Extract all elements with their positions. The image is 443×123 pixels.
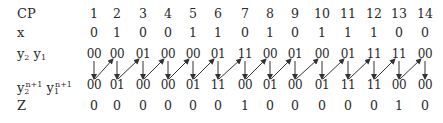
z-cell: 0 <box>82 99 106 113</box>
present-state-cell: 00 <box>105 47 129 61</box>
z-cell: 0 <box>258 99 282 113</box>
x-cell: 1 <box>362 26 386 40</box>
present-state-cell: 11 <box>233 47 257 61</box>
x-cell: 1 <box>206 26 230 40</box>
cp-cell: 11 <box>336 7 360 21</box>
present-state-cell: 01 <box>131 47 155 61</box>
z-cell: 0 <box>105 99 129 113</box>
x-cell: 0 <box>283 26 307 40</box>
x-cell: 1 <box>310 26 334 40</box>
z-cell: 0 <box>131 99 155 113</box>
x-cell: 0 <box>233 26 257 40</box>
x-cell: 0 <box>131 26 155 40</box>
present-state-cell: 11 <box>387 47 411 61</box>
next-state-cell: 11 <box>206 78 230 92</box>
cp-cell: 10 <box>310 7 334 21</box>
present-state-cell: 00 <box>156 47 180 61</box>
next-state-cell: 00 <box>82 78 106 92</box>
cp-cell: 14 <box>413 7 437 21</box>
z-cell: 0 <box>310 99 334 113</box>
present-state-cell: 01 <box>283 47 307 61</box>
z-cell: 0 <box>206 99 230 113</box>
next-state-cell: 00 <box>387 78 411 92</box>
next-state-cell: 11 <box>336 78 360 92</box>
next-state-cell: 11 <box>362 78 386 92</box>
next-state-cell: 01 <box>310 78 334 92</box>
present-state-cell: 00 <box>181 47 205 61</box>
next-state-cell: 00 <box>156 78 180 92</box>
z-cell: 0 <box>283 99 307 113</box>
next-state-cell: 00 <box>131 78 155 92</box>
z-cell: 1 <box>233 99 257 113</box>
next-state-cell: 01 <box>181 78 205 92</box>
x-cell: 0 <box>156 26 180 40</box>
cp-cell: 12 <box>362 7 386 21</box>
present-state-cell: 00 <box>413 47 437 61</box>
x-cell: 0 <box>387 26 411 40</box>
next-state-cell: 01 <box>105 78 129 92</box>
next-state-cell: 00 <box>413 78 437 92</box>
cp-cell: 3 <box>131 7 155 21</box>
z-cell: 0 <box>413 99 437 113</box>
cp-cell: 9 <box>283 7 307 21</box>
cp-cell: 8 <box>258 7 282 21</box>
state-transition-table: CP x y2 y1 y2n+1 y1n+1 Z 123456789101112… <box>0 0 443 123</box>
x-cell: 1 <box>258 26 282 40</box>
present-state-cell: 11 <box>362 47 386 61</box>
x-cell: 0 <box>413 26 437 40</box>
z-cell: 0 <box>181 99 205 113</box>
cp-cell: 13 <box>387 7 411 21</box>
z-cell: 0 <box>156 99 180 113</box>
present-state-cell: 00 <box>310 47 334 61</box>
present-state-cell: 00 <box>82 47 106 61</box>
cp-cell: 5 <box>181 7 205 21</box>
x-cell: 0 <box>82 26 106 40</box>
cp-cell: 1 <box>82 7 106 21</box>
x-cell: 1 <box>181 26 205 40</box>
cp-cell: 7 <box>233 7 257 21</box>
x-cell: 1 <box>105 26 129 40</box>
z-cell: 0 <box>362 99 386 113</box>
present-state-cell: 00 <box>258 47 282 61</box>
cp-cell: 6 <box>206 7 230 21</box>
x-cell: 1 <box>336 26 360 40</box>
cp-cell: 4 <box>156 7 180 21</box>
next-state-cell: 01 <box>258 78 282 92</box>
present-state-cell: 01 <box>336 47 360 61</box>
present-state-cell: 01 <box>206 47 230 61</box>
next-state-cell: 00 <box>283 78 307 92</box>
z-cell: 0 <box>336 99 360 113</box>
cp-cell: 2 <box>105 7 129 21</box>
z-cell: 1 <box>387 99 411 113</box>
next-state-cell: 00 <box>233 78 257 92</box>
